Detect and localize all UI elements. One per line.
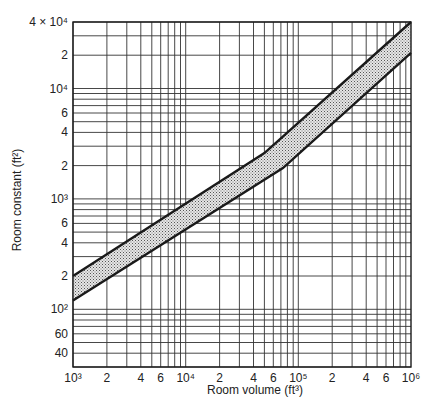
x-tick-label: 2	[329, 371, 336, 385]
x-tick-label: 10³	[64, 371, 81, 385]
x-tick-label: 2	[104, 371, 111, 385]
y-tick-label: 6	[61, 106, 68, 120]
shaded-band	[73, 22, 411, 301]
y-tick-label: 2	[61, 269, 68, 283]
x-axis-label: Room volume (ft³)	[207, 383, 303, 397]
y-tick-label: 10⁴	[49, 82, 68, 96]
y-tick-label: 2	[61, 48, 68, 62]
x-tick-label: 6	[157, 371, 164, 385]
x-tick-label: 4	[363, 371, 370, 385]
y-tick-label: 4	[61, 125, 68, 139]
y-axis-label: Room constant (ft²)	[10, 149, 24, 252]
x-tick-label: 10⁶	[402, 371, 420, 385]
y-tick-label: 60	[55, 327, 69, 341]
x-tick-label: 4	[137, 371, 144, 385]
y-tick-label: 4	[61, 236, 68, 250]
x-tick-label: 10⁴	[176, 371, 195, 385]
y-tick-label: 40	[55, 346, 69, 360]
y-tick-label: 10³	[51, 192, 68, 206]
room-constant-chart: 10³24610⁴24610⁵24610⁶ 406010²24610³24610…	[0, 0, 430, 413]
y-tick-label: 4 × 10⁴	[29, 15, 68, 29]
y-tick-label: 2	[61, 159, 68, 173]
y-axis-ticks: 406010²24610³24610⁴24 × 10⁴	[29, 15, 68, 360]
upper-bound-line	[73, 22, 411, 276]
y-tick-label: 6	[61, 216, 68, 230]
x-tick-label: 6	[383, 371, 390, 385]
y-tick-label: 10²	[51, 302, 68, 316]
